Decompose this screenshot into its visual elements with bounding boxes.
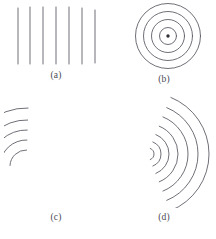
panel-a-plane-wavefronts: (a) [4, 2, 108, 90]
panel-d-label: (d) [112, 212, 216, 222]
wavefront-arc-3 [156, 135, 169, 174]
wavefront-arc-1 [10, 150, 27, 165]
circular-wavefront-canvas [112, 2, 216, 74]
wavefront-arc-2 [4, 140, 27, 165]
panel-c-label: (c) [4, 212, 108, 222]
panel-d-expanding-wavefronts: (d) [112, 96, 216, 236]
expanding-wavefront-canvas [112, 96, 216, 208]
curved-wavefront-canvas [4, 96, 108, 208]
panel-b-label: (b) [112, 74, 216, 84]
wave-source-dot [166, 34, 169, 37]
panel-c-curved-wavefronts: (c) [4, 96, 108, 236]
panel-b-circular-wavefronts: (b) [112, 2, 216, 94]
wavefront-arc-7 [171, 97, 209, 208]
wavefront-arc-5 [4, 108, 28, 164]
figure-root: (a) (b) (c) (d) [0, 0, 216, 239]
wavefront-arc-5 [163, 117, 188, 191]
wavefront-arc-1 [150, 148, 154, 159]
panel-a-label: (a) [4, 70, 108, 80]
plane-wavefront-canvas [4, 2, 108, 70]
